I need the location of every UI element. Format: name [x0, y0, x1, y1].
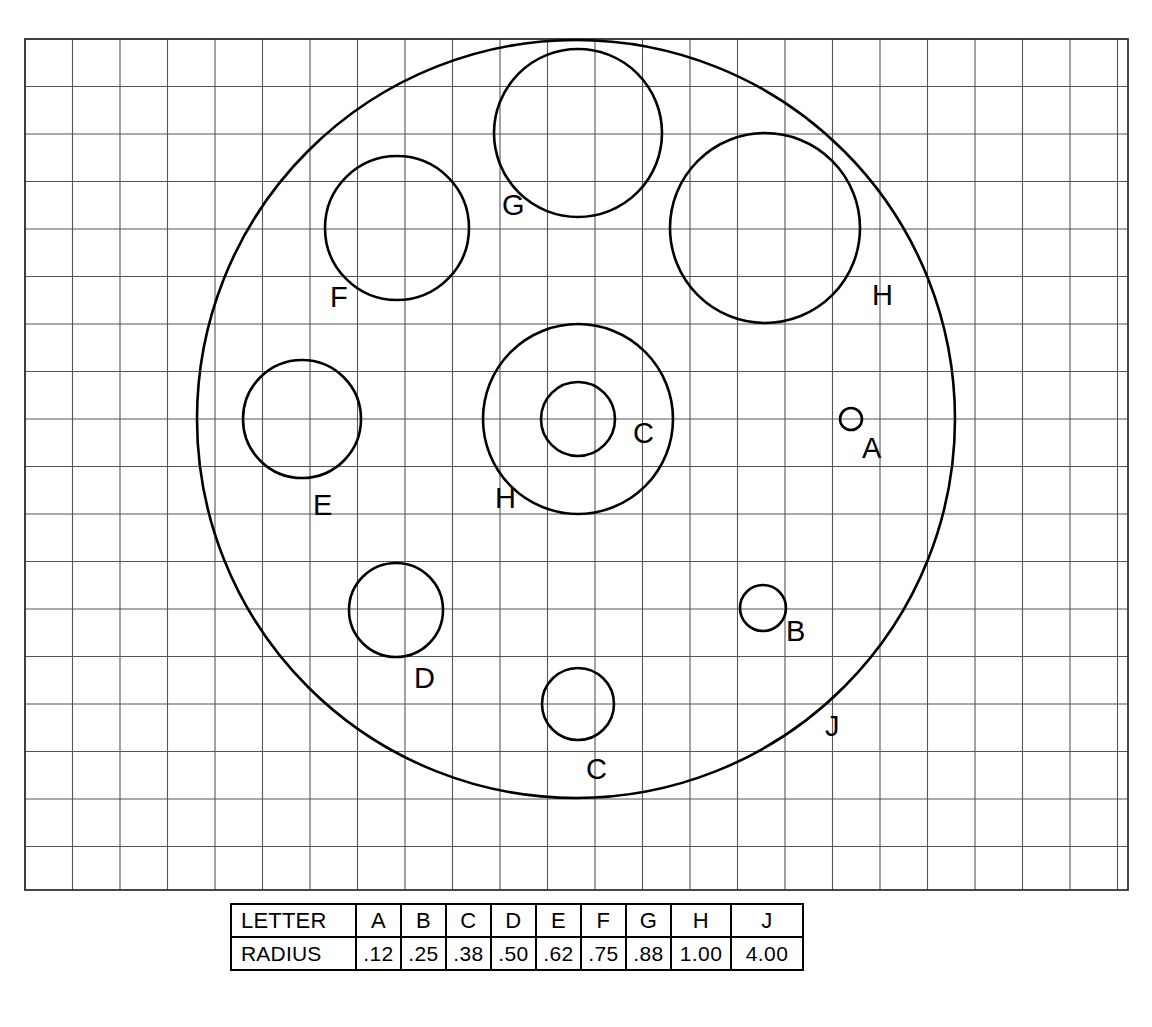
circle-label-j: J [825, 710, 840, 742]
table-row: RADIUS.12.25.38.50.62.75.881.004.00 [231, 937, 803, 970]
circle-labels: JHHGFEDCCBA [313, 189, 893, 785]
table-cell: .50 [491, 937, 536, 970]
circle-b [740, 585, 786, 631]
circle-label-c1: C [633, 417, 654, 449]
table-row-header: LETTER [231, 904, 356, 937]
circle-label-d: D [414, 662, 435, 694]
table-row: LETTERABCDEFGHJ [231, 904, 803, 937]
table-cell: A [356, 904, 401, 937]
table-cell: 4.00 [731, 937, 803, 970]
table-cell: C [446, 904, 491, 937]
circle-label-f: F [330, 281, 348, 313]
circle-h1 [670, 133, 860, 323]
table-cell: D [491, 904, 536, 937]
circle-label-a: A [862, 432, 882, 464]
table-row-header: RADIUS [231, 937, 356, 970]
circle-label-c2: C [586, 753, 607, 785]
circle-label-g: G [502, 189, 525, 221]
grid-border [25, 39, 1128, 890]
circle-d [349, 563, 443, 657]
table-cell: .25 [401, 937, 446, 970]
circle-label-h2: H [495, 482, 516, 514]
circle-label-e: E [313, 489, 332, 521]
table-cell: .75 [581, 937, 626, 970]
table-cell: J [731, 904, 803, 937]
table-cell: 1.00 [671, 937, 731, 970]
radius-legend-table: LETTERABCDEFGHJRADIUS.12.25.38.50.62.75.… [230, 903, 804, 971]
table-cell: E [536, 904, 581, 937]
table-cell: .12 [356, 937, 401, 970]
table-cell: F [581, 904, 626, 937]
table-cell: .62 [536, 937, 581, 970]
grid [25, 39, 1128, 890]
table-cell: G [626, 904, 671, 937]
table-cell: .38 [446, 937, 491, 970]
table-cell: H [671, 904, 731, 937]
circle-f [325, 156, 469, 300]
table-cell: .88 [626, 937, 671, 970]
diagram-canvas: JHHGFEDCCBA LETTERABCDEFGHJRADIUS.12.25.… [0, 0, 1152, 1027]
table-cell: B [401, 904, 446, 937]
circle-label-b: B [786, 615, 805, 647]
circle-label-h1: H [872, 279, 893, 311]
circle-diagram: JHHGFEDCCBA [0, 0, 1152, 1027]
